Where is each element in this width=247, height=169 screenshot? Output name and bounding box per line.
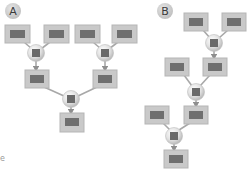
node-b-leaf-1 [184, 13, 208, 31]
node-b-leaf-2 [222, 13, 246, 31]
diagram-a: A [5, 3, 137, 132]
badge-b-label: B [161, 5, 169, 18]
hub-a-right [97, 45, 114, 62]
node-a-mid-left [25, 70, 49, 88]
hub-a-left [28, 45, 45, 62]
node-b-intermediate-2 [184, 106, 208, 124]
node-a-mid-right [93, 70, 117, 88]
node-a-leaf-1 [5, 25, 30, 43]
node-a-leaf-2 [44, 25, 69, 43]
node-b-leaf-3 [165, 58, 189, 76]
merge-tree-diagram: A [0, 0, 247, 169]
node-a-leaf-3 [75, 25, 100, 43]
node-b-intermediate-1 [203, 58, 227, 76]
badge-a: A [5, 3, 21, 19]
hub-b-3 [166, 128, 183, 145]
hub-b-1 [206, 35, 223, 52]
cropped-text-fragment: e [0, 154, 5, 163]
hub-b-2 [188, 84, 205, 101]
badge-b: B [157, 3, 173, 19]
hub-a-root [63, 91, 80, 108]
node-b-output [164, 150, 188, 168]
node-a-leaf-4 [112, 25, 137, 43]
badge-a-label: A [9, 5, 17, 18]
node-a-output [60, 113, 84, 132]
node-b-leaf-4 [145, 106, 169, 124]
diagram-b: B [145, 3, 246, 168]
